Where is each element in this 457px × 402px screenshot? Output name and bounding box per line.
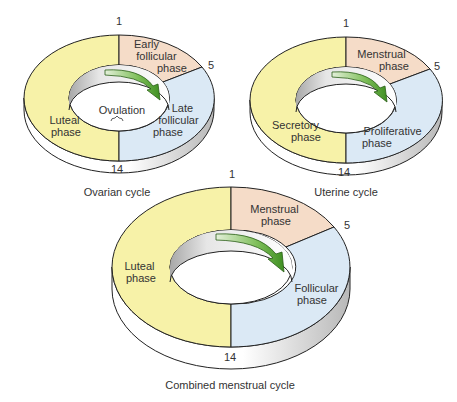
day-marker-14: 14 [224, 351, 236, 363]
uterine-cycle-ring: 1 5 14 Menstrual phase Proliferative pha… [250, 17, 442, 198]
label-luteal: Luteal phase [124, 260, 157, 284]
day-marker-1: 1 [229, 168, 235, 180]
label-ovulation: Ovulation [99, 104, 145, 116]
day-marker-1: 1 [116, 15, 122, 27]
caption-combined-cycle: Combined menstrual cycle [165, 379, 295, 391]
day-marker-14: 14 [338, 166, 350, 178]
day-marker-5: 5 [344, 219, 350, 231]
day-marker-14: 14 [111, 163, 123, 175]
menstrual-cycle-diagrams: 1 5 14 Early follicular phase Late folli… [0, 0, 457, 402]
label-luteal: Luteal phase [49, 114, 82, 138]
combined-cycle-ring: 1 5 14 Menstrual phase Follicular phase … [112, 168, 350, 391]
day-marker-1: 1 [343, 17, 349, 29]
caption-ovarian-cycle: Ovarian cycle [84, 186, 151, 198]
day-marker-5: 5 [434, 60, 440, 72]
ovarian-cycle-ring: 1 5 14 Early follicular phase Late folli… [24, 15, 214, 198]
day-marker-5: 5 [208, 59, 214, 71]
caption-uterine-cycle: Uterine cycle [314, 186, 378, 198]
